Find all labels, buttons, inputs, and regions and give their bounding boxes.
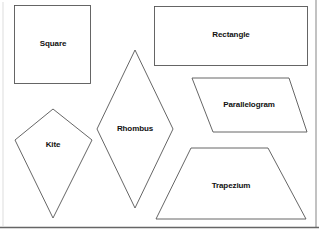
parallelogram-shape: Parallelogram bbox=[192, 78, 307, 132]
square-label: Square bbox=[40, 39, 67, 48]
rectangle-shape: Rectangle bbox=[155, 7, 308, 66]
kite-shape: Kite bbox=[15, 109, 92, 218]
rhombus-shape: Rhombus bbox=[97, 50, 173, 208]
parallelogram-label: Parallelogram bbox=[223, 100, 275, 109]
trapezium-label: Trapezium bbox=[212, 181, 251, 190]
trapezium-shape: Trapezium bbox=[156, 148, 306, 219]
kite-label: Kite bbox=[46, 140, 61, 149]
rectangle-label: Rectangle bbox=[212, 30, 250, 39]
square-shape: Square bbox=[15, 6, 91, 84]
diagram-canvas: Square Rectangle Parallelogram Rhombus K… bbox=[0, 0, 319, 229]
shapes-diagram: Square Rectangle Parallelogram Rhombus K… bbox=[0, 0, 319, 229]
rhombus-label: Rhombus bbox=[117, 124, 154, 133]
